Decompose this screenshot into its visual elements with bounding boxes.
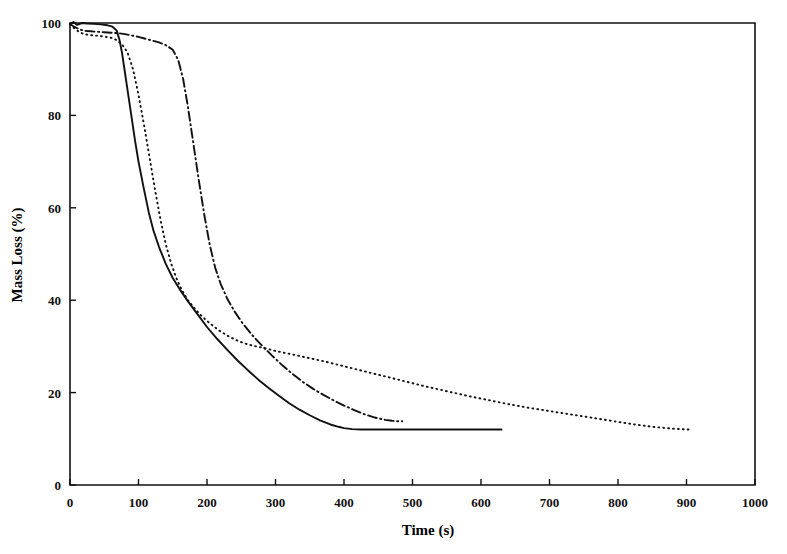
- y-axis-title: Mass Loss (%): [9, 207, 26, 302]
- tick-labels-group: 0100200300400500600700800900100002040608…: [42, 16, 769, 510]
- x-tick-label: 700: [540, 495, 560, 510]
- x-tick-label: 0: [67, 495, 74, 510]
- data-series-line-3: [70, 24, 402, 421]
- chart-plot-area: 0100200300400500600700800900100002040608…: [0, 0, 787, 554]
- y-tick-label: 60: [48, 201, 61, 216]
- chart-figure: 0100200300400500600700800900100002040608…: [0, 0, 787, 554]
- x-tick-label: 300: [266, 495, 286, 510]
- x-tick-label: 800: [608, 495, 628, 510]
- data-series-line-2: [70, 24, 690, 429]
- curves-group: [70, 22, 690, 429]
- axes-group: [70, 23, 755, 485]
- x-tick-label: 1000: [742, 495, 768, 510]
- y-tick-label: 20: [48, 386, 61, 401]
- x-tick-label: 200: [197, 495, 217, 510]
- x-axis-title: Time (s): [402, 522, 455, 539]
- x-tick-label: 500: [403, 495, 423, 510]
- x-tick-label: 100: [129, 495, 149, 510]
- x-tick-label: 600: [471, 495, 491, 510]
- y-tick-label: 40: [48, 293, 61, 308]
- axis-box: [70, 23, 755, 485]
- x-tick-label: 900: [677, 495, 697, 510]
- x-tick-label: 400: [334, 495, 354, 510]
- ticks-group: [70, 23, 755, 485]
- y-tick-label: 100: [42, 16, 62, 31]
- y-tick-label: 80: [48, 108, 61, 123]
- y-tick-label: 0: [55, 478, 62, 493]
